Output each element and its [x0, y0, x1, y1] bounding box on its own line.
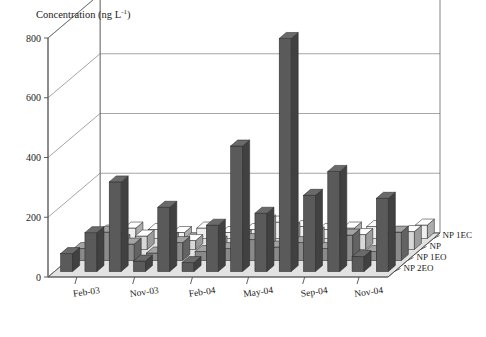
bar-np-1ec-Sep-04: [255, 207, 274, 271]
series-label-np-1eo: NP 1EO: [417, 252, 447, 262]
bar-side-face: [267, 207, 274, 271]
bar-side-face: [388, 192, 395, 271]
chart-figure: 0200400600800 Feb-03Nov-03Feb-04May-04Se…: [0, 0, 486, 337]
bar-np-1ec-Feb-03: [61, 248, 80, 272]
bar-np-1ec-May-04: [206, 219, 225, 271]
y-tick-label-400: 400: [26, 152, 41, 163]
bar-front-face: [85, 233, 97, 272]
bar-np-1ec-Feb-04: [158, 201, 177, 271]
bar-side-face: [243, 140, 250, 271]
bar-front-face: [376, 198, 388, 271]
bar-np-1ec-Nov-03: [109, 176, 128, 272]
bar-np-1ec-Dec-04: [328, 165, 347, 271]
bar-front-face: [134, 261, 146, 271]
bar-np-1ec-Apr-03: [376, 192, 395, 271]
bar-side-face: [170, 201, 177, 271]
bar-front-face: [304, 195, 316, 271]
bar-np-1ec-Nov-04: [304, 189, 323, 271]
bar-side-face: [340, 165, 347, 271]
bar-front-face: [61, 254, 73, 272]
bar-side-face: [218, 219, 225, 271]
bar-front-face: [279, 38, 291, 271]
bar-front-face: [206, 225, 218, 271]
bar-front-face: [109, 182, 121, 272]
y-tick-label-200: 200: [26, 212, 41, 223]
series-label-np-2eo: NP 2EO: [404, 263, 434, 273]
series-label-np-1ec: NP 1EC: [443, 230, 472, 240]
bar-np-1ec-Jul-04: [231, 140, 250, 271]
y-tick-label-600: 600: [26, 92, 41, 103]
y-tick-label-0: 0: [36, 272, 41, 283]
bar-front-face: [182, 263, 194, 272]
bar-front-face: [328, 171, 340, 271]
bar-side-face: [97, 227, 104, 272]
bar-side-face: [121, 176, 128, 272]
bar-side-face: [291, 32, 298, 271]
chart-title: Concentration (ng L-1): [36, 8, 131, 21]
bar-np-1ec-Apr-03: [85, 227, 104, 272]
bar-front-face: [158, 207, 170, 271]
bar-side-face: [316, 189, 323, 271]
bar-front-face: [352, 257, 364, 272]
concentration-3d-bar-chart: 0200400600800 Feb-03Nov-03Feb-04May-04Se…: [0, 0, 486, 337]
y-tick-label-800: 800: [26, 33, 41, 44]
bar-front-face: [231, 146, 243, 271]
bar-np-1ec-Oct-04: [279, 32, 298, 271]
series-label-np: NP: [430, 241, 442, 251]
bar-front-face: [255, 213, 267, 271]
